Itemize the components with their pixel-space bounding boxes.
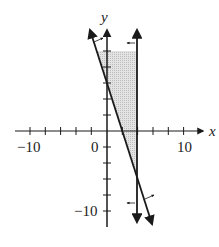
x-tick-label-0: 0 [91,139,99,155]
x-tick-label-10: 10 [177,139,192,155]
shade-direction-arrow-icon [94,38,103,42]
shade-direction-arrow-icon [145,195,154,199]
y-axis-label: y [99,9,108,25]
inequality-graph: y x −10 0 10 −10 [0,0,219,247]
x-tick-label-neg10: −10 [17,139,40,155]
y-tick-label-neg10: −10 [74,203,97,219]
x-axis-label: x [208,123,216,139]
